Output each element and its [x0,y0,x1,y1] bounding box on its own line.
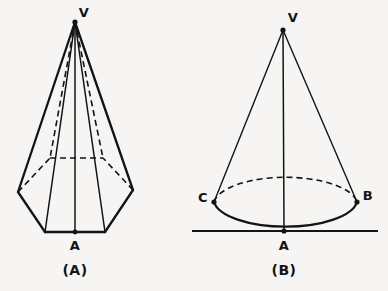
cone-point-c-label: C [198,190,208,205]
pyramid-base-center-dot [73,230,78,235]
geometry-figure: V A (A) V A B C [0,0,388,291]
cone-base-center-dot [281,228,286,233]
cone-point-b-dot [354,199,359,204]
panel-b-caption: (B) [272,262,297,278]
figure-background [0,0,388,291]
cone-base-center-label: A [279,238,290,253]
pyramid-apex-label: V [79,5,90,20]
cone-apex-label: V [288,10,299,25]
figure-page: V A (A) V A B C [0,0,388,291]
cone-point-b-label: B [363,188,373,203]
pyramid-apex-dot [72,19,77,24]
pyramid-base-center-label: A [70,238,81,253]
cone-point-c-dot [211,199,216,204]
cone-axis-line [283,30,284,231]
panel-a-caption: (A) [62,262,87,278]
cone-apex-dot [280,27,285,32]
